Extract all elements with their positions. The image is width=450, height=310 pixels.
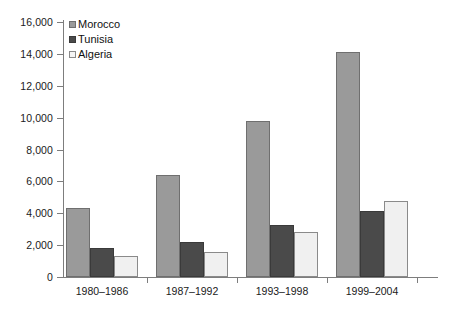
y-axis-label: 4,000 — [26, 208, 53, 219]
x-axis-label: 1993–1998 — [237, 286, 327, 297]
x-axis-tick — [237, 278, 238, 283]
x-axis-label: 1980–1986 — [57, 286, 147, 297]
bar-algeria-1 — [204, 252, 228, 277]
bar-morocco-1 — [156, 175, 180, 277]
legend-item-algeria: Algeria — [69, 47, 120, 62]
legend-swatch-icon — [69, 36, 76, 43]
bar-tunisia-1 — [180, 242, 204, 277]
x-axis-label: 1999–2004 — [327, 286, 417, 297]
x-axis-tick — [147, 278, 148, 283]
x-axis-tick — [417, 278, 418, 283]
bar-chart: 02,0004,0006,0008,00010,00012,00014,0001… — [0, 0, 450, 310]
legend-swatch-icon — [69, 21, 76, 28]
y-axis-tick — [57, 150, 63, 151]
x-axis-tick — [327, 278, 328, 283]
bar-algeria-3 — [384, 201, 408, 277]
chart-legend: MoroccoTunisiaAlgeria — [69, 17, 120, 62]
y-axis-tick — [57, 22, 63, 23]
bar-tunisia-3 — [360, 211, 384, 277]
y-axis-label: 14,000 — [20, 49, 53, 60]
y-axis-tick — [57, 213, 63, 214]
y-axis-tick — [57, 54, 63, 55]
bar-algeria-0 — [114, 256, 138, 277]
y-axis-label: 12,000 — [20, 81, 53, 92]
x-axis-label: 1987–1992 — [147, 286, 237, 297]
y-axis-label: 2,000 — [26, 240, 53, 251]
bar-morocco-0 — [66, 208, 90, 277]
y-axis-tick — [57, 118, 63, 119]
bar-tunisia-2 — [270, 225, 294, 277]
y-axis-label: 16,000 — [20, 17, 53, 28]
y-axis-label: 8,000 — [26, 145, 53, 156]
legend-item-tunisia: Tunisia — [69, 32, 120, 47]
legend-label: Algeria — [78, 49, 112, 60]
x-axis-line — [63, 277, 438, 278]
y-axis-label: 6,000 — [26, 176, 53, 187]
legend-item-morocco: Morocco — [69, 17, 120, 32]
legend-swatch-icon — [69, 51, 76, 58]
y-axis-tick — [57, 245, 63, 246]
y-axis-label: 10,000 — [20, 113, 53, 124]
legend-label: Morocco — [78, 19, 120, 30]
y-axis-label: 0 — [47, 272, 53, 283]
legend-label: Tunisia — [78, 34, 113, 45]
plot-area — [64, 22, 440, 277]
bar-morocco-3 — [336, 52, 360, 277]
y-axis-tick — [57, 277, 63, 278]
y-axis-tick — [57, 181, 63, 182]
bar-morocco-2 — [246, 121, 270, 277]
bar-tunisia-0 — [90, 248, 114, 277]
y-axis-tick — [57, 86, 63, 87]
bar-algeria-2 — [294, 232, 318, 277]
